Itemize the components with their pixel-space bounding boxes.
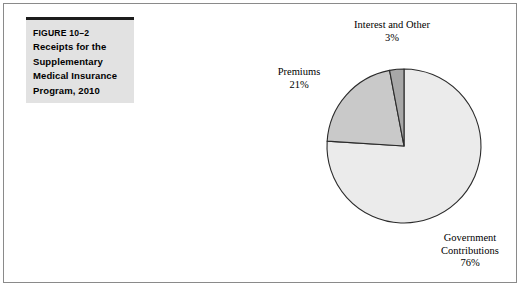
pie-label-government-contributions: Government Contributions 76% (427, 232, 513, 270)
pie-label-government-percent: 76% (427, 257, 513, 270)
pie-label-government-name-line1: Government (444, 232, 497, 243)
figure-title-line-4: Program, 2010 (33, 84, 133, 98)
pie-label-premiums-name: Premiums (278, 66, 321, 77)
pie-label-premiums: Premiums 21% (265, 66, 333, 91)
figure-title-line-3: Medical Insurance (33, 69, 133, 83)
pie-label-interest-name: Interest and Other (354, 19, 430, 30)
pie-label-interest-and-other: Interest and Other 3% (347, 19, 437, 44)
figure-title-line-1: Receipts for the (33, 40, 133, 54)
figure-number-label: FIGURE 10–2 (33, 26, 133, 40)
figure-container: FIGURE 10–2 Receipts for the Supplementa… (0, 0, 523, 295)
pie-label-premiums-percent: 21% (265, 79, 333, 92)
pie-label-interest-percent: 3% (347, 32, 437, 45)
figure-title-block: FIGURE 10–2 Receipts for the Supplementa… (26, 17, 134, 103)
title-text-wrapper: FIGURE 10–2 Receipts for the Supplementa… (33, 26, 133, 98)
figure-title-line-2: Supplementary (33, 55, 133, 69)
title-top-rule (26, 17, 134, 20)
pie-label-government-name-line2: Contributions (427, 245, 513, 258)
